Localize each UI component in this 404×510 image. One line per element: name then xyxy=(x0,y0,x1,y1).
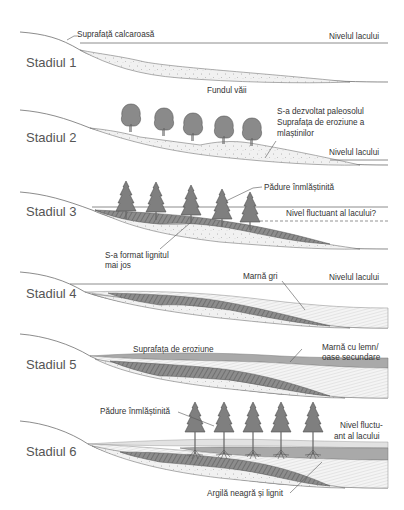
stage-2-paleosol-text-3: mlaștinilor xyxy=(277,129,314,138)
stage-6-label: Stadiul 6 xyxy=(26,444,77,459)
stage-1-label: Stadiul 1 xyxy=(26,55,77,70)
stage-3-lignite-text-2: mai jos xyxy=(105,261,131,270)
stage-3-forest-text: Pădure înmlăștinită xyxy=(264,183,335,192)
stage-1-valley-floor-text: Fundul văii xyxy=(207,86,247,95)
stage-4-lake-level-text: Nivelul lacului xyxy=(329,273,379,282)
round-tree-icon xyxy=(183,113,202,141)
stage-2-label: Stadiul 2 xyxy=(26,130,77,145)
round-tree-icon xyxy=(121,104,140,132)
stage-3: Stadiul 3 Pădure înmlăștinită Nivel fluc… xyxy=(20,181,388,270)
geology-stages-diagram: Stadiul 1 Suprafață calcaroasă Nivelul l… xyxy=(0,0,404,510)
stage-6-forest-text: Pădure înmlăștinită xyxy=(100,407,171,416)
stage-6-clay-text: Argilă neagră și lignit xyxy=(207,489,284,498)
stage-3-label: Stadiul 3 xyxy=(26,204,77,219)
stage-1-surface-text: Suprafață calcaroasă xyxy=(77,30,155,39)
stage-1: Stadiul 1 Suprafață calcaroasă Nivelul l… xyxy=(20,30,388,95)
stage-1-lake-level-text: Nivelul lacului xyxy=(329,32,379,41)
stage-3-forest-leader xyxy=(226,187,262,201)
stage-6-fluct-text-1: Nivel fluctu- xyxy=(340,421,383,430)
stage-6: Stadiul 6 Pădure înmlăștinită Nivel fluc… xyxy=(20,402,388,498)
stage-5-marl-wood-text-1: Marnă cu lemn/ xyxy=(322,343,379,352)
stage-3-fluctuating-level-text: Nivel fluctuant al lacului? xyxy=(286,209,377,218)
stage-4-grey-marl-text: Marnă gri xyxy=(243,272,278,281)
stage-2-paleosol-text-2: Suprafața de eroziune a xyxy=(277,118,365,127)
stage-5-label: Stadiul 5 xyxy=(26,357,77,372)
stage-5-marl-wood-text-2: oase secundare xyxy=(322,353,381,362)
round-tree-icon xyxy=(154,108,173,136)
stage-1-sand-layer xyxy=(80,50,350,83)
stage-6-fluct-text-2: ant al lacului xyxy=(334,432,380,441)
stage-5-erosion-text: Suprafața de eroziune xyxy=(133,345,214,354)
stage-3-lignite-text-1: S-a format lignitul xyxy=(105,251,169,260)
stage-2: Stadiul 2 S-a dezvoltat paleosolul Supra… xyxy=(20,104,388,165)
stage-5: Stadiul 5 Suprafața de eroziune Marnă cu… xyxy=(20,334,388,398)
round-tree-icon xyxy=(214,116,233,144)
stage-1-surface-leader xyxy=(67,36,77,40)
stage-4: Stadiul 4 Marnă gri Nivelul lacului xyxy=(20,272,388,328)
stage-2-paleosol-text-1: S-a dezvoltat paleosolul xyxy=(277,107,364,116)
round-tree-icon xyxy=(242,118,261,146)
stage-2-lake-level-text: Nivelul lacului xyxy=(329,148,379,157)
stage-4-label: Stadiul 4 xyxy=(26,286,77,301)
